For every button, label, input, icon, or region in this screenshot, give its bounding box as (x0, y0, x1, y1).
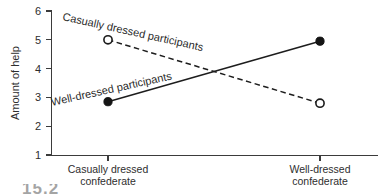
data-point-well-dressed-casual-confederate (104, 98, 112, 106)
y-axis-title: Amount of help (9, 46, 21, 120)
y-tick-label-1: 1 (35, 149, 41, 161)
series-label-casually-dressed-participants: Casually dressed participants (62, 10, 205, 53)
x-category-label-2-line1: Well-dressed (289, 163, 350, 175)
y-tick-label-4: 4 (35, 63, 41, 75)
data-point-well-dressed-well-confederate (316, 37, 324, 45)
data-point-casually-dressed-casual-confederate (104, 36, 112, 44)
figure-caption-fragment: 15.2 (22, 184, 142, 194)
y-tick-label-2: 2 (35, 120, 41, 132)
y-tick-label-3: 3 (35, 91, 41, 103)
data-point-casually-dressed-well-confederate (316, 99, 324, 107)
y-tick-label-6: 6 (35, 5, 41, 17)
series-line-well-dressed-participants (108, 41, 320, 101)
x-category-label-2-line2: confederate (292, 175, 348, 187)
x-category-label-1-line1: Casually dressed (68, 163, 149, 175)
line-chart: 6 5 4 3 2 1 Amount of help Casually dres… (0, 0, 388, 194)
y-tick-label-5: 5 (35, 34, 41, 46)
figure-container: 6 5 4 3 2 1 Amount of help Casually dres… (0, 0, 388, 194)
